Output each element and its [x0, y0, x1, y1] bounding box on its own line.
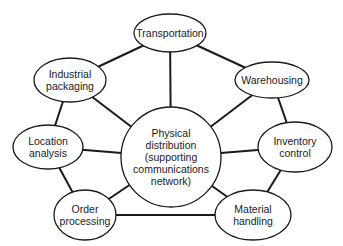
node-center-label: Physical distribution (supporting commun…: [133, 127, 209, 187]
node-material-label: Material handling: [233, 203, 273, 227]
node-center: Physical distribution (supporting commun…: [121, 107, 221, 207]
node-transportation: Transportation: [134, 14, 206, 52]
node-material: Material handling: [215, 190, 291, 240]
node-warehousing: Warehousing: [235, 62, 309, 98]
node-packaging-label: Industrial packaging: [46, 68, 94, 92]
node-order: Order processing: [54, 190, 116, 240]
node-inventory-label: Inventory control: [273, 135, 316, 159]
node-order-label: Order processing: [60, 203, 111, 227]
node-transportation-label: Transportation: [136, 27, 203, 39]
node-packaging: Industrial packaging: [34, 58, 106, 102]
node-location-label: Location analysis: [28, 135, 68, 159]
node-inventory: Inventory control: [258, 122, 332, 172]
node-location: Location analysis: [13, 125, 83, 169]
node-warehousing-label: Warehousing: [241, 74, 302, 86]
